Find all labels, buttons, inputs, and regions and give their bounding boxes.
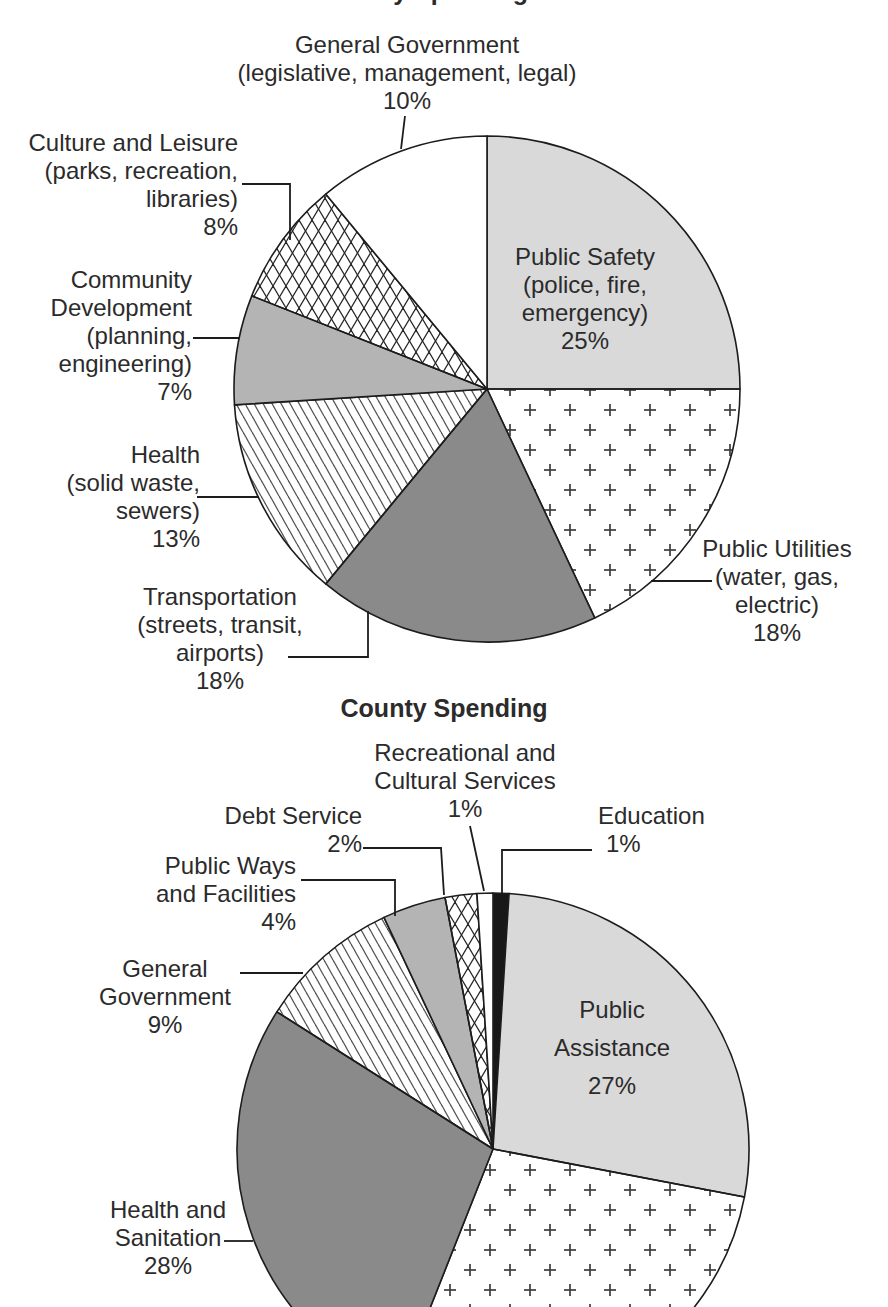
label-general-government-county: General Government 9% <box>60 955 270 1039</box>
label-public-safety-inside: Public Safety (police, fire, emergency) … <box>465 243 705 355</box>
label-health-sanitation: Health and Sanitation 28% <box>68 1196 268 1280</box>
figure-two-pie-charts: City Spending General Government (legisl… <box>0 0 888 1307</box>
callout-debt-service <box>363 848 444 895</box>
county-chart-title: County Spending <box>0 696 888 720</box>
label-public-assistance-inside: Public Assistance 27% <box>502 991 722 1105</box>
label-general-government-city: General Government (legislative, managem… <box>237 31 577 115</box>
callout-education <box>502 850 592 893</box>
label-health: Health (solid waste, sewers) 13% <box>10 441 200 553</box>
city-chart-title: City Spending <box>0 0 888 3</box>
label-transportation: Transportation (streets, transit, airpor… <box>110 583 330 695</box>
callout-public-ways <box>301 880 395 916</box>
label-recreational: Recreational and Cultural Services 1% <box>340 739 590 823</box>
label-debt-service: Debt Service 2% <box>182 802 362 858</box>
label-education: Education 1% <box>598 802 758 858</box>
label-community-development: Community Development (planning, enginee… <box>2 266 192 406</box>
callout-general-government <box>401 116 405 149</box>
label-culture-leisure: Culture and Leisure (parks, recreation, … <box>8 129 238 241</box>
label-public-utilities: Public Utilities (water, gas, electric) … <box>677 535 877 647</box>
city-spending-pie <box>234 136 740 642</box>
callout-culture-leisure <box>242 184 290 240</box>
callout-recreational <box>470 826 484 891</box>
label-public-ways: Public Ways and Facilities 4% <box>106 852 296 936</box>
